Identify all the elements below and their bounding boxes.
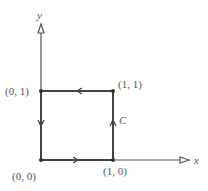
vertex-1-1 (111, 89, 115, 93)
y-axis-arrowhead-icon (38, 24, 44, 33)
vertex-origin (39, 158, 43, 162)
diagram-canvas: y x (0, 0) (0, 1) (1, 1) (1, 0) C (0, 0, 208, 191)
x-axis-label: x (193, 154, 199, 166)
x-axis-arrowhead-icon (180, 157, 189, 163)
label-1-1: (1, 1) (118, 78, 142, 91)
curve-c (41, 91, 113, 160)
curve-label: C (119, 114, 127, 126)
vertex-1-0 (111, 158, 115, 162)
label-0-1: (0, 1) (5, 85, 29, 98)
y-axis-label: y (36, 9, 42, 21)
label-origin: (0, 0) (12, 170, 36, 183)
label-1-0: (1, 0) (103, 165, 127, 178)
vertex-0-1 (39, 89, 43, 93)
